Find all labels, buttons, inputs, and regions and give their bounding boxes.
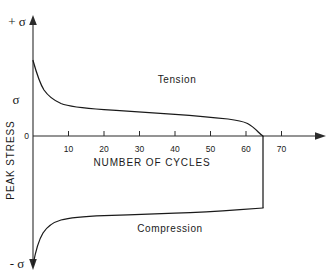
y-axis-top-arrowhead (29, 15, 37, 25)
tick-label-30: 30 (135, 144, 145, 154)
y-axis-zero-label: 0 (24, 131, 29, 141)
x-axis-ticks (69, 131, 282, 136)
x-axis-right-arrowhead (315, 132, 326, 139)
tick-label-50: 50 (206, 144, 216, 154)
y-axis-positive-sigma-label: + σ (8, 14, 26, 29)
x-axis-title: NUMBER OF CYCLES (93, 157, 210, 168)
tick-label-60: 60 (241, 144, 251, 154)
tension-curve (33, 61, 263, 137)
y-axis-sigma-label: σ (12, 92, 19, 107)
tick-label-40: 40 (170, 144, 180, 154)
y-axis-negative-sigma-label: - σ (10, 256, 25, 271)
tick-label-70: 70 (277, 144, 287, 154)
tick-label-10: 10 (64, 144, 74, 154)
compression-curve (33, 208, 263, 265)
y-axis-title: PEAK STRESS (5, 120, 16, 199)
tick-label-20: 20 (99, 144, 109, 154)
x-axis-tick-labels: 10 20 30 40 50 60 70 (64, 144, 287, 154)
peak-stress-vs-cycles-chart: 10 20 30 40 50 60 70 0 NUMBER OF CYCLES … (0, 0, 335, 279)
compression-curve-label: Compression (137, 223, 203, 234)
tension-curve-label: Tension (158, 74, 197, 85)
